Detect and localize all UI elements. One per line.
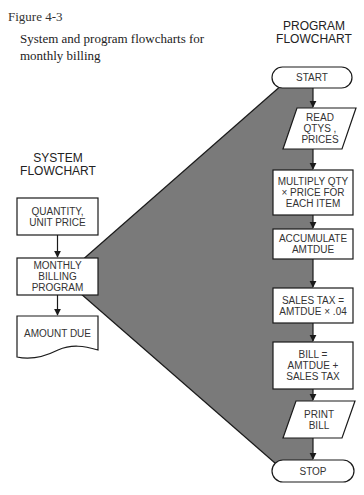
node-text-line: EACH ITEM [286,198,340,209]
node-text-line: MONTHLY [33,260,81,271]
program-node-sales-tax: SALES TAX = AMTDUE × .04 [273,288,353,323]
node-text-line: PRICES [301,134,338,145]
node-text-line: QUANTITY, [31,206,83,217]
node-text-line: START [296,72,328,83]
node-text-line: × PRICE FOR [281,187,344,198]
program-node-accumulate: ACCUMULATE AMTDUE [273,229,353,259]
node-text-line: SALES TAX [286,371,340,382]
node-text-line: AMTDUE × .04 [279,306,347,317]
node-text-line: AMOUNT DUE [24,328,91,339]
program-node-multiply: MULTIPLY QTY × PRICE FOR EACH ITEM [273,170,353,215]
system-node-amount-due: AMOUNT DUE [17,316,98,350]
node-text-line: AMTDUE [292,244,334,255]
node-text-line: BILL = [299,349,328,360]
node-text-line: BILLING [38,271,76,282]
system-node-monthly-billing-program: MONTHLY BILLING PROGRAM [17,258,98,295]
node-text-line: PROGRAM [32,282,84,293]
node-text-line: ACCUMULATE [279,233,347,244]
program-node-stop: STOP [272,460,354,482]
program-node-start: START [272,67,352,88]
node-text-line: SALES TAX = [282,295,344,306]
expansion-wedge [80,84,313,470]
system-node-quantity-unit-price: QUANTITY, UNIT PRICE [17,198,98,235]
node-text-line: BILL [309,420,330,431]
node-text-line: AMTDUE + [288,360,339,371]
program-node-read-qtys-prices: READ QTYS , PRICES [284,108,356,149]
node-text-line: QTYS , [304,123,337,134]
program-node-bill: BILL = AMTDUE + SALES TAX [273,342,353,389]
node-text-line: MULTIPLY QTY [278,176,349,187]
node-text-line: PRINT [304,409,334,420]
node-text-line: STOP [299,466,326,477]
node-text-line: UNIT PRICE [29,217,86,228]
node-text-line: READ [306,112,334,123]
program-node-print-bill: PRINT BILL [284,401,354,438]
